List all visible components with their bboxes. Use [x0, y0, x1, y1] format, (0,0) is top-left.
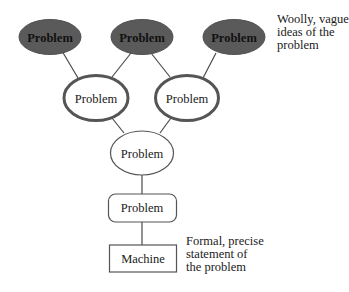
- edge-m1-r1: [112, 118, 124, 133]
- edge-v1-m1: [62, 51, 78, 78]
- node-vague-1: Problem: [19, 20, 81, 55]
- node-label: Problem: [211, 31, 257, 45]
- edge-v2-m1: [112, 53, 131, 77]
- node-label: Problem: [27, 31, 73, 45]
- node-label: Machine: [121, 252, 165, 266]
- annotation-line: problem: [277, 39, 349, 52]
- edge-v2-m2: [151, 53, 170, 77]
- node-intermediate-1: Problem: [64, 76, 128, 121]
- node-label: Problem: [121, 147, 164, 161]
- annotation-vague: Woolly, vague ideas of the problem: [277, 13, 349, 52]
- annotation-formal: Formal, precise statement of the problem: [186, 235, 264, 274]
- node-machine: Machine: [110, 245, 177, 272]
- node-structured: Problem: [109, 194, 177, 222]
- node-label: Problem: [121, 201, 164, 215]
- annotation-line: the problem: [186, 261, 264, 274]
- node-label: Problem: [166, 92, 209, 106]
- node-refined: Problem: [111, 131, 174, 175]
- node-vague-2: Problem: [111, 20, 173, 55]
- edge-v3-m2: [203, 53, 216, 78]
- node-label: Problem: [119, 31, 165, 45]
- node-intermediate-2: Problem: [156, 76, 219, 121]
- edge-m2-r1: [160, 118, 171, 133]
- node-vague-3: Problem: [203, 20, 265, 55]
- node-label: Problem: [75, 92, 118, 106]
